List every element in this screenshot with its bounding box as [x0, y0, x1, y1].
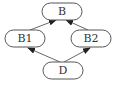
node-d-label: D: [59, 64, 68, 77]
edge-d-to-b2: [64, 48, 90, 62]
node-b-label: B: [58, 5, 66, 18]
diagram-canvas: B B1 B2 D: [0, 0, 116, 89]
edge-b2-to-b: [66, 20, 88, 30]
node-b1-label: B1: [17, 32, 32, 45]
node-d: D: [43, 62, 83, 79]
edge-b1-to-b: [30, 20, 56, 30]
node-b: B: [42, 3, 82, 20]
node-b1: B1: [5, 30, 45, 47]
node-b2-label: B2: [83, 32, 98, 45]
edge-d-to-b1: [28, 48, 60, 62]
node-b2: B2: [71, 30, 111, 47]
